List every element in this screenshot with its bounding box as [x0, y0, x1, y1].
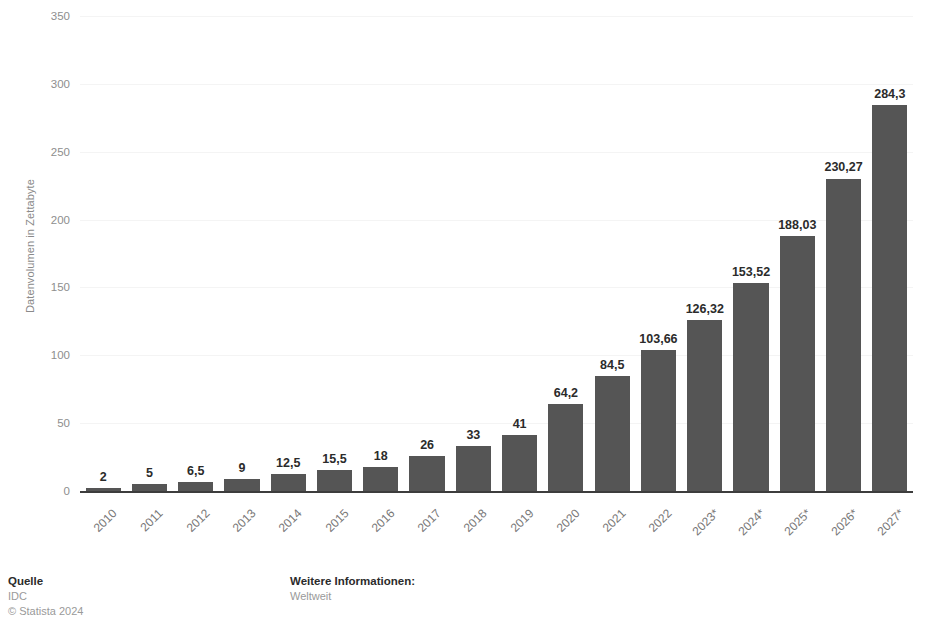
bar[interactable]	[86, 488, 121, 491]
footer-more-info-title: Weitere Informationen:	[290, 574, 415, 589]
footer-copyright: © Statista 2024	[8, 604, 83, 619]
x-tick-label: 2012	[161, 507, 213, 559]
bar-value-label: 103,66	[618, 332, 698, 346]
x-tick-label: 2017	[392, 507, 444, 559]
bar-value-label: 284,3	[850, 87, 926, 101]
footer-source-name: IDC	[8, 589, 83, 604]
footer-more-info: Weitere Informationen: Weltweit	[290, 574, 415, 604]
x-tick-label: 2020	[531, 507, 583, 559]
x-tick-label: 2026*	[809, 507, 861, 559]
footer-more-info-scope: Weltweit	[290, 589, 415, 604]
x-tick-label: 2013	[207, 507, 259, 559]
x-tick-label: 2018	[438, 507, 490, 559]
bar-value-label: 41	[480, 417, 560, 431]
x-tick-label: 2019	[485, 507, 537, 559]
x-tick-label: 2022	[623, 507, 675, 559]
x-tick-label: 2016	[346, 507, 398, 559]
bar[interactable]	[224, 479, 259, 491]
bar[interactable]	[132, 484, 167, 491]
x-tick-label: 2011	[114, 507, 166, 559]
x-tick-label: 2027*	[855, 507, 907, 559]
footer-source-title: Quelle	[8, 574, 83, 589]
bar[interactable]	[456, 446, 491, 491]
footer: Quelle IDC © Statista 2024 Weitere Infor…	[0, 560, 926, 637]
x-tick-label: 2015	[299, 507, 351, 559]
bar[interactable]	[178, 482, 213, 491]
bar[interactable]	[363, 467, 398, 491]
x-tick-label: 2025*	[762, 507, 814, 559]
bar[interactable]	[317, 470, 352, 491]
x-axis-line	[80, 491, 913, 493]
bar-value-label: 64,2	[526, 386, 606, 400]
bar-value-label: 84,5	[572, 358, 652, 372]
bar-value-label: 126,32	[665, 302, 745, 316]
x-tick-label: 2024*	[716, 507, 768, 559]
bar[interactable]	[502, 435, 537, 491]
x-tick-label: 2014	[253, 507, 305, 559]
bars-group	[0, 0, 926, 491]
chart-page: Datenvolumen in Zettabyte 05010015020025…	[0, 0, 926, 637]
bar-value-label: 153,52	[711, 265, 791, 279]
bar-value-label: 230,27	[804, 160, 884, 174]
x-tick-label: 2023*	[670, 507, 722, 559]
bar-chart: Datenvolumen in Zettabyte 05010015020025…	[0, 0, 926, 560]
bar-value-label: 188,03	[757, 218, 837, 232]
bar[interactable]	[271, 474, 306, 491]
x-tick-label: 2010	[68, 507, 120, 559]
footer-source: Quelle IDC © Statista 2024	[8, 574, 83, 619]
x-tick-label: 2021	[577, 507, 629, 559]
